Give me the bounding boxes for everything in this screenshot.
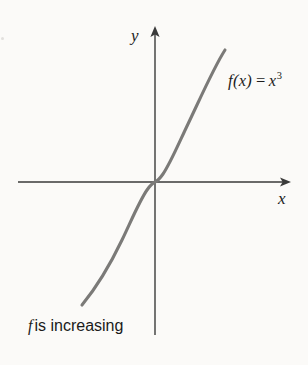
plot-canvas [0, 0, 308, 365]
cubic-curve [82, 50, 225, 305]
equals-sign: = [252, 71, 269, 90]
x-axis-label: x [278, 190, 286, 207]
increasing-caption: fis increasing [28, 318, 123, 334]
y-axis-label: y [131, 27, 139, 44]
caption-text: is increasing [34, 317, 123, 334]
function-name: f(x) [228, 71, 252, 90]
function-exponent: 3 [276, 70, 282, 81]
scan-artifact-speck [1, 37, 4, 40]
function-equation-label: f(x)=x3 [228, 71, 282, 90]
cubic-function-figure: y x f(x)=x3 fis increasing [0, 0, 308, 365]
